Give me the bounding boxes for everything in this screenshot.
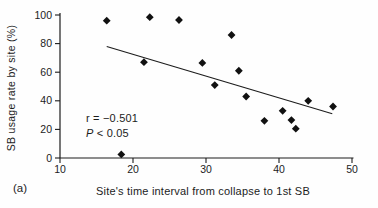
data-point	[242, 93, 250, 101]
data-point	[140, 58, 148, 66]
panel-label: (a)	[13, 182, 27, 194]
y-tick-label: 40	[40, 94, 52, 106]
x-tick-label: 10	[54, 163, 66, 175]
y-tick-label: 0	[46, 152, 52, 164]
data-point	[198, 59, 206, 67]
y-tick-label: 20	[40, 123, 52, 135]
data-point	[175, 16, 183, 24]
data-point	[211, 81, 219, 89]
p-symbol: P	[86, 127, 94, 139]
r-value-text: r = −0.501	[86, 111, 138, 126]
x-tick-label: 20	[127, 163, 139, 175]
data-point	[228, 31, 236, 39]
data-point	[117, 151, 125, 159]
figure-panel: 0204060801001020304050 SB usage rate by …	[0, 0, 378, 208]
data-point	[288, 116, 296, 124]
x-tick-label: 30	[200, 163, 212, 175]
data-point	[235, 67, 243, 75]
y-axis-label: SB usage rate by site (%)	[5, 25, 17, 152]
plot-svg: 0204060801001020304050	[0, 0, 378, 208]
p-value-text: P < 0.05	[86, 126, 138, 141]
trend-line	[107, 46, 333, 113]
data-point	[279, 107, 287, 115]
y-tick-label: 60	[40, 66, 52, 78]
data-point	[103, 17, 111, 25]
x-axis-label: Site's time interval from collapse to 1s…	[55, 185, 351, 197]
data-point	[261, 117, 269, 125]
data-point	[146, 13, 154, 21]
y-tick-label: 100	[34, 9, 52, 21]
p-threshold: < 0.05	[94, 127, 129, 139]
x-tick-label: 40	[273, 163, 285, 175]
r-value-label: r = −0.501	[86, 112, 138, 124]
x-tick-label: 50	[346, 163, 358, 175]
data-point	[304, 97, 312, 105]
stats-annotation: r = −0.501 P < 0.05	[86, 111, 138, 141]
data-point	[329, 103, 337, 111]
y-tick-label: 80	[40, 37, 52, 49]
data-point	[292, 125, 300, 133]
